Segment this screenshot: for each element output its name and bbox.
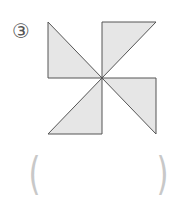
answer-close-paren: ) <box>157 146 169 202</box>
triangle-bottom-right <box>102 78 156 134</box>
pinwheel-figure <box>0 0 181 209</box>
triangle-top-left <box>48 22 102 78</box>
triangle-top-right <box>102 22 156 78</box>
triangle-bottom-left <box>48 78 102 134</box>
answer-open-paren: ( <box>29 146 41 202</box>
center-point <box>101 77 103 79</box>
